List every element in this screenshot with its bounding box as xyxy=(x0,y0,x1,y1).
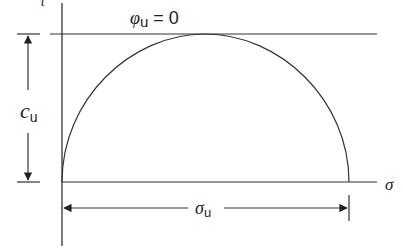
envelope-label: φu = 0 xyxy=(130,8,179,30)
tau-axis-label: τ xyxy=(40,0,46,9)
mohr-semicircle xyxy=(62,34,349,182)
sigma-axis-label: σ xyxy=(385,175,394,194)
mohr-circle-diagram: τ σ φu = 0 cu σu xyxy=(0,0,403,251)
cu-label: cu xyxy=(20,98,38,125)
sigma-u-label: σu xyxy=(195,198,211,220)
